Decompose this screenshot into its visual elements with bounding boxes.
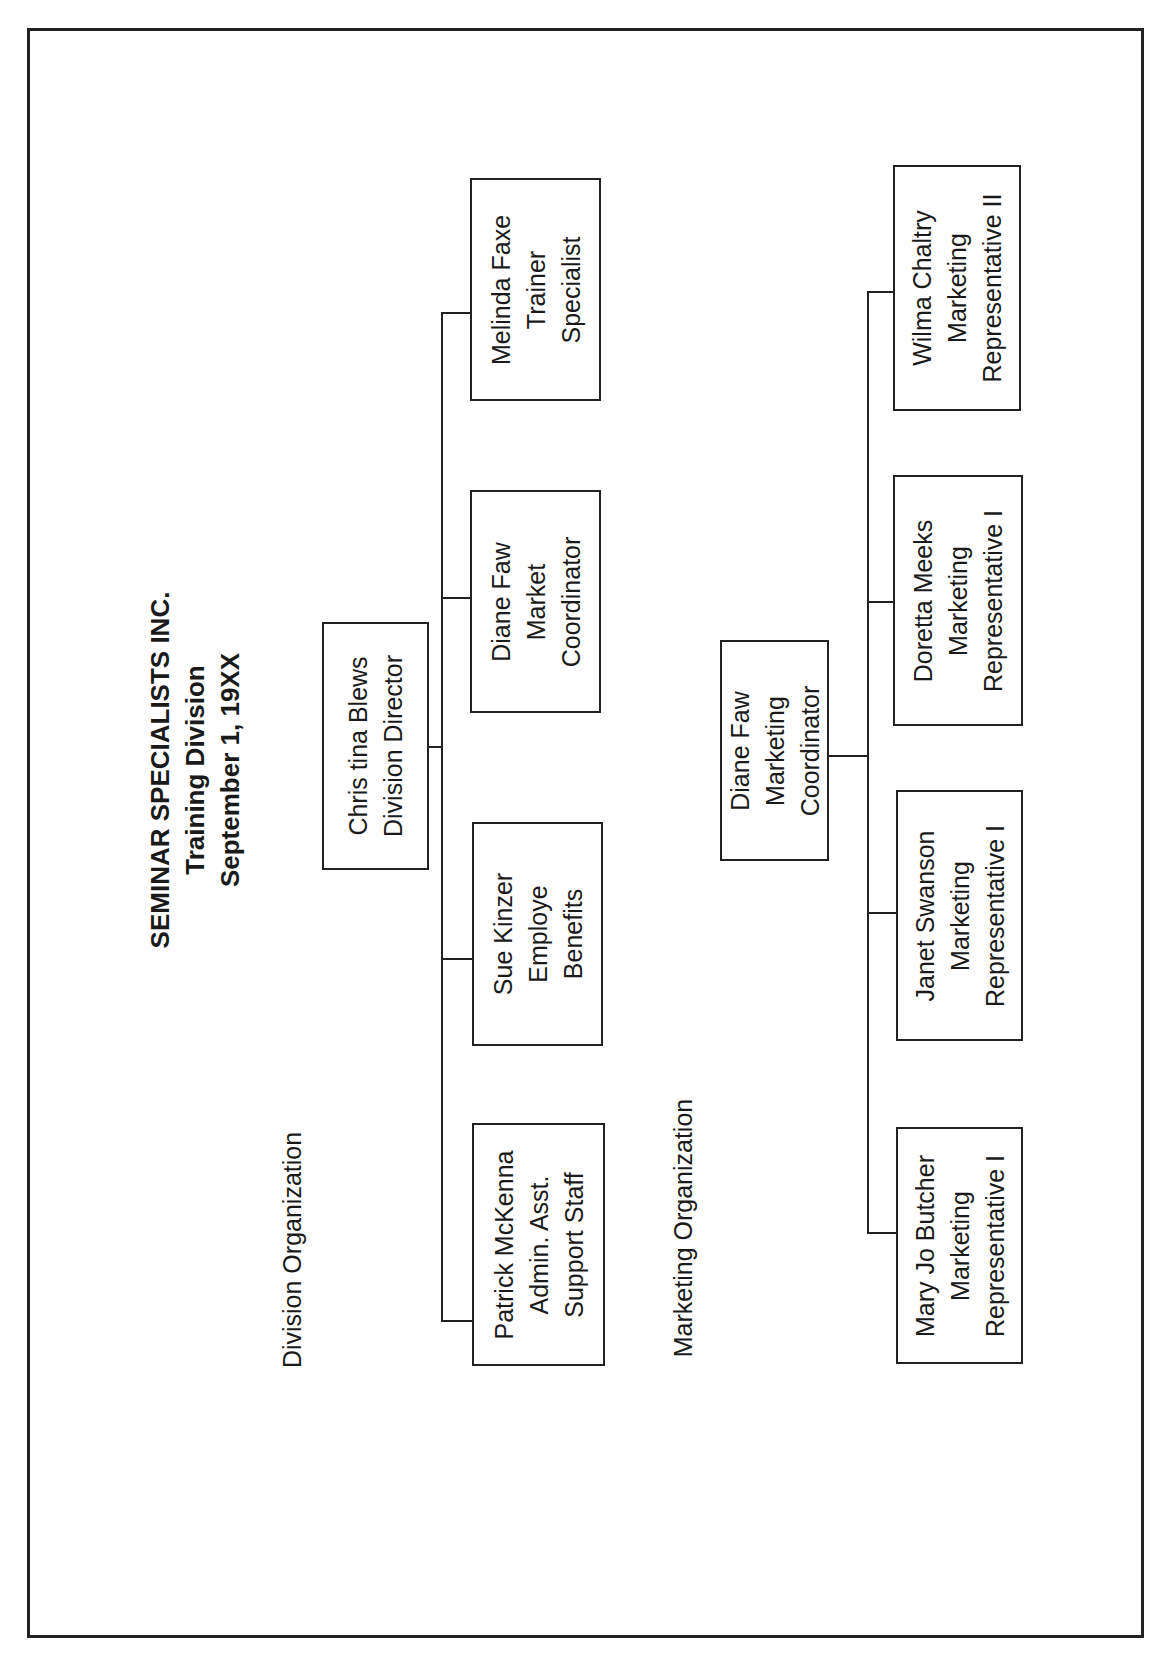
person-role: Representative I	[977, 1154, 1012, 1336]
connector-line	[867, 912, 897, 914]
connector-line	[867, 291, 894, 293]
connector-line	[867, 1232, 897, 1234]
connector-line	[828, 755, 869, 757]
chart-title: SEMINAR SPECIALISTS INC. Training Divisi…	[143, 592, 248, 949]
org-box-diane-faw-market: Diane Faw Market Coordinator	[470, 490, 601, 713]
company-name: SEMINAR SPECIALISTS INC.	[143, 592, 178, 949]
connector-line	[867, 291, 869, 1234]
org-box-melinda-faxe: Melinda Faxe Trainer Specialist	[470, 178, 601, 401]
connector-line	[428, 746, 442, 748]
org-box-division-director: Chris tina Blews Division Director	[322, 622, 429, 870]
person-role: Employe	[520, 873, 555, 995]
person-role: Marketing	[942, 824, 977, 1006]
org-box-mary-jo-butcher: Mary Jo Butcher Marketing Representative…	[896, 1127, 1023, 1364]
person-name: Chris tina Blews	[341, 655, 376, 837]
person-role: Trainer	[518, 214, 553, 364]
division-name: Training Division	[178, 592, 213, 949]
org-box-sue-kinzer: Sue Kinzer Employe Benefits	[472, 822, 603, 1046]
person-name: Melinda Faxe	[483, 214, 518, 364]
person-role: Support Staff	[556, 1150, 591, 1339]
org-box-patrick-mckenna: Patrick McKenna Admin. Asst. Support Sta…	[472, 1123, 605, 1366]
chart-date: September 1, 19XX	[213, 592, 248, 949]
person-name: Patrick McKenna	[486, 1150, 521, 1339]
connector-line	[441, 1320, 473, 1322]
connector-line	[867, 601, 894, 603]
person-name: Diane Faw	[722, 685, 757, 816]
person-role: Marketing	[940, 194, 975, 383]
person-name: Sue Kinzer	[485, 873, 520, 995]
person-role: Specialist	[553, 214, 588, 364]
person-role: Marketing	[942, 1154, 977, 1336]
person-role: Representative I	[976, 509, 1011, 691]
person-name: Mary Jo Butcher	[907, 1154, 942, 1336]
person-role: Marketing	[757, 685, 792, 816]
connector-line	[441, 597, 471, 599]
marketing-organization-label: Marketing Organization	[669, 1099, 698, 1357]
person-role: Market	[518, 536, 553, 667]
person-name: Doretta Meeks	[906, 509, 941, 691]
org-box-doretta-meeks: Doretta Meeks Marketing Representative I	[893, 475, 1023, 726]
connector-line	[441, 312, 443, 1322]
person-role: Division Director	[376, 655, 411, 837]
connector-line	[441, 958, 473, 960]
org-box-marketing-coordinator: Diane Faw Marketing Coordinator	[720, 640, 829, 861]
person-role: Marketing	[941, 509, 976, 691]
person-role: Benefits	[555, 873, 590, 995]
org-box-wilma-chaltry: Wilma Chaltry Marketing Representative I…	[893, 165, 1021, 411]
person-role: Admin. Asst.	[521, 1150, 556, 1339]
person-name: Diane Faw	[483, 536, 518, 667]
person-name: Janet Swanson	[907, 824, 942, 1006]
connector-line	[441, 312, 471, 314]
person-role: Representative I	[977, 824, 1012, 1006]
person-role: Coordinator	[792, 685, 827, 816]
org-box-janet-swanson: Janet Swanson Marketing Representative I	[896, 790, 1023, 1041]
person-role: Representative II	[975, 194, 1010, 383]
person-role: Coordinator	[553, 536, 588, 667]
division-organization-label: Division Organization	[278, 1132, 307, 1368]
person-name: Wilma Chaltry	[905, 194, 940, 383]
